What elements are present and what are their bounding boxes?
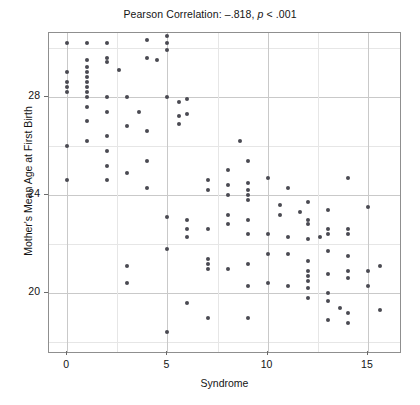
data-point [125, 171, 129, 175]
data-point [206, 267, 210, 271]
data-point [155, 58, 159, 62]
data-point [318, 235, 322, 239]
x-tick-mark [267, 351, 268, 355]
data-point [226, 183, 230, 187]
data-point [206, 188, 210, 192]
data-point [266, 281, 270, 285]
data-point [85, 90, 89, 94]
y-tick-mark [44, 96, 48, 97]
data-point [165, 95, 169, 99]
data-point [105, 110, 109, 114]
gridline-vertical [117, 33, 118, 352]
data-point [278, 203, 282, 207]
gridline-horizontal-minor [49, 342, 400, 343]
data-point [366, 269, 370, 273]
data-point [246, 198, 250, 202]
chart-title-tail: < .001 [263, 8, 296, 20]
data-point [145, 186, 149, 190]
data-point [306, 237, 310, 241]
data-point [85, 139, 89, 143]
data-point [346, 321, 350, 325]
data-point [206, 178, 210, 182]
gridline-horizontal-minor [49, 48, 400, 49]
gridline-horizontal [49, 97, 400, 98]
x-tick-mark [166, 351, 167, 355]
data-point [306, 200, 310, 204]
data-point [326, 227, 330, 231]
data-point [246, 159, 250, 163]
data-point [278, 213, 282, 217]
data-point [185, 227, 189, 231]
data-point [326, 249, 330, 253]
data-point [326, 272, 330, 276]
gridline-horizontal [49, 195, 400, 196]
data-point [378, 308, 382, 312]
data-point [246, 284, 250, 288]
data-point [246, 232, 250, 236]
data-point [286, 252, 290, 256]
data-point [306, 218, 310, 222]
data-point [306, 222, 310, 226]
data-point [165, 41, 169, 45]
data-point [65, 41, 69, 45]
data-point [246, 181, 250, 185]
data-point [145, 56, 149, 60]
data-point [165, 48, 169, 52]
gridline-vertical [218, 33, 219, 352]
data-point [105, 41, 109, 45]
x-axis-label: Syndrome [48, 377, 401, 389]
data-point [306, 279, 310, 283]
data-point [298, 210, 302, 214]
data-point [125, 281, 129, 285]
data-point [346, 227, 350, 231]
data-point [85, 80, 89, 84]
data-point [306, 286, 310, 290]
scatter-plot-figure: Pearson Correlation: –.818, p < .001 Syn… [0, 0, 420, 405]
y-tick-mark [44, 194, 48, 195]
gridline-horizontal-minor [49, 244, 400, 245]
data-point [226, 168, 230, 172]
data-point [65, 70, 69, 74]
data-point [85, 85, 89, 89]
data-point [206, 227, 210, 231]
data-point [125, 124, 129, 128]
data-point [246, 188, 250, 192]
data-point [65, 144, 69, 148]
data-point [306, 269, 310, 273]
gridline-vertical [368, 33, 369, 352]
data-point [85, 58, 89, 62]
gridline-horizontal [49, 293, 400, 294]
data-point [346, 269, 350, 273]
data-point [125, 95, 129, 99]
data-point [165, 247, 169, 251]
data-point [346, 232, 350, 236]
data-point [117, 68, 121, 72]
data-point [326, 208, 330, 212]
data-point [145, 159, 149, 163]
data-point [286, 284, 290, 288]
data-point [185, 301, 189, 305]
data-point [105, 149, 109, 153]
data-point [185, 218, 189, 222]
data-point [306, 274, 310, 278]
data-point [105, 95, 109, 99]
x-tick-mark [367, 351, 368, 355]
gridline-vertical [268, 33, 269, 352]
plot-area [48, 32, 401, 353]
data-point [206, 262, 210, 266]
data-point [366, 284, 370, 288]
data-point [286, 235, 290, 239]
data-point [346, 311, 350, 315]
data-point [306, 259, 310, 263]
gridline-vertical [318, 33, 319, 352]
data-point [145, 38, 149, 42]
data-point [185, 97, 189, 101]
x-tick-mark [66, 351, 67, 355]
data-point [137, 110, 141, 114]
data-point [286, 186, 290, 190]
data-point [185, 235, 189, 239]
x-tick-label: 15 [347, 358, 387, 370]
data-point [326, 299, 330, 303]
data-point [246, 316, 250, 320]
data-point [226, 267, 230, 271]
